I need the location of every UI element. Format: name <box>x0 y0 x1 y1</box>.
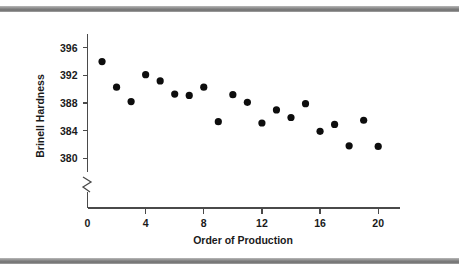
y-tick-label: 380 <box>60 152 78 164</box>
y-tick-label: 392 <box>60 69 78 81</box>
y-axis-break-icon <box>83 177 91 192</box>
data-point <box>142 71 149 78</box>
data-point <box>375 143 382 150</box>
x-tick-label: 16 <box>314 217 326 229</box>
x-axis-title: Order of Production <box>193 234 293 246</box>
data-point <box>186 92 193 99</box>
data-point <box>171 90 178 97</box>
data-point <box>273 106 280 113</box>
data-point <box>360 117 367 124</box>
data-point <box>316 128 323 135</box>
data-point <box>229 91 236 98</box>
data-point <box>302 100 309 107</box>
data-point <box>128 98 135 105</box>
y-tick-label: 396 <box>60 42 78 54</box>
x-tick-label: 8 <box>201 217 207 229</box>
data-point <box>258 119 265 126</box>
data-point <box>157 77 164 84</box>
x-tick-label: 12 <box>256 217 268 229</box>
y-tick-label: 384 <box>60 125 78 137</box>
data-point <box>98 58 105 65</box>
data-point <box>215 118 222 125</box>
scatter-plot: 380384388392396 048121620 Order of Produ… <box>0 12 459 258</box>
x-tick-label: 0 <box>85 217 91 229</box>
plot-axes <box>83 34 400 208</box>
data-point <box>244 99 251 106</box>
data-point <box>346 142 353 149</box>
y-axis-ticks: 380384388392396 <box>60 42 88 164</box>
bottom-divider-rule <box>0 258 459 264</box>
data-point <box>113 84 120 91</box>
data-point-series <box>98 58 381 150</box>
x-tick-label: 4 <box>143 217 149 229</box>
figure-container: 380384388392396 048121620 Order of Produ… <box>0 0 459 270</box>
data-point <box>287 114 294 121</box>
data-point <box>200 84 207 91</box>
data-point <box>331 121 338 128</box>
x-axis-ticks: 048121620 <box>85 208 385 229</box>
x-tick-label: 20 <box>372 217 384 229</box>
y-axis-title: Brinell Hardness <box>34 74 46 158</box>
y-tick-label: 388 <box>60 97 78 109</box>
